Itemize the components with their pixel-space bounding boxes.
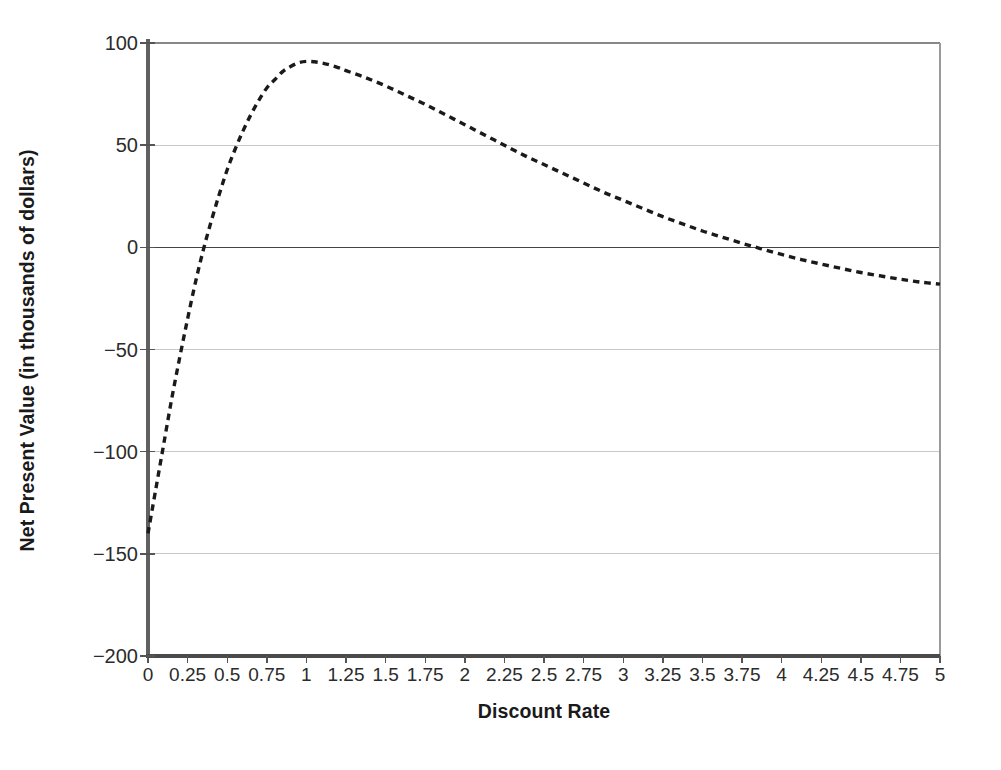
data-series-group [148,61,940,533]
x-axis-tick-marks [148,656,940,663]
x-tick-label: 0.5 [214,664,240,686]
axes-group [146,39,940,656]
gridlines-group [148,145,940,554]
x-tick-label: 1.75 [407,664,444,686]
x-tick-label: 3.5 [689,664,715,686]
x-tick-label: 4 [776,664,787,686]
x-tick-label: 4.5 [848,664,874,686]
npv-chart-figure: Net Present Value (in thousands of dolla… [0,0,1001,770]
x-tick-label: 1 [301,664,312,686]
x-tick-label: 0.25 [169,664,206,686]
x-tick-label: 1.5 [372,664,398,686]
x-tick-label: 3 [618,664,629,686]
x-tick-label: 5 [935,664,946,686]
x-tick-label: 3.75 [724,664,761,686]
x-tick-label: 4.75 [882,664,919,686]
x-tick-label: 2 [460,664,471,686]
plot-canvas [0,0,1001,770]
x-tick-label: 0.75 [248,664,285,686]
x-tick-label: 1.25 [328,664,365,686]
x-axis-title: Discount Rate [148,700,940,723]
x-tick-label: 2.75 [565,664,602,686]
x-tick-label: 4.25 [803,664,840,686]
x-tick-label: 3.25 [644,664,681,686]
x-tick-label: 2.25 [486,664,523,686]
x-tick-label: 0 [143,664,154,686]
x-tick-label: 2.5 [531,664,557,686]
